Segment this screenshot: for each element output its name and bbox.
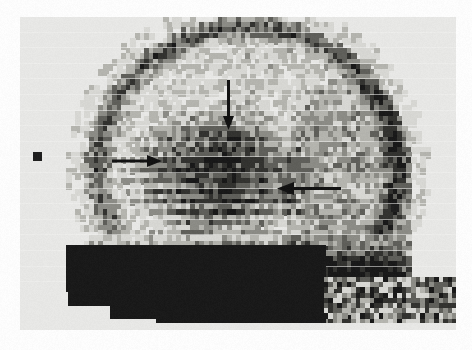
annotation-arrow-down-icon xyxy=(222,80,235,132)
figure-root xyxy=(0,0,472,350)
brain-scan-raster-image xyxy=(20,17,456,330)
annotation-arrow-right-icon xyxy=(112,154,164,168)
annotation-arrow-left-icon xyxy=(277,181,341,196)
scan-image-frame xyxy=(20,17,456,330)
fiducial-marker-right xyxy=(391,204,399,212)
fiducial-marker-left xyxy=(33,152,42,161)
